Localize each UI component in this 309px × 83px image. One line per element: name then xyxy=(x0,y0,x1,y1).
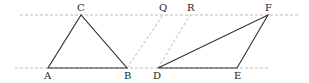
segment-bq xyxy=(127,15,163,68)
label-b: B xyxy=(124,70,131,81)
triangle-def xyxy=(158,15,268,68)
label-a: A xyxy=(43,70,52,81)
label-r: R xyxy=(187,2,195,13)
label-d: D xyxy=(153,70,161,81)
label-c: C xyxy=(77,2,85,13)
label-e: E xyxy=(234,70,241,81)
label-q: Q xyxy=(159,2,167,13)
label-f: F xyxy=(265,2,272,13)
triangle-abc xyxy=(48,15,127,68)
geometry-diagram: ABCQRFDE xyxy=(0,0,309,83)
